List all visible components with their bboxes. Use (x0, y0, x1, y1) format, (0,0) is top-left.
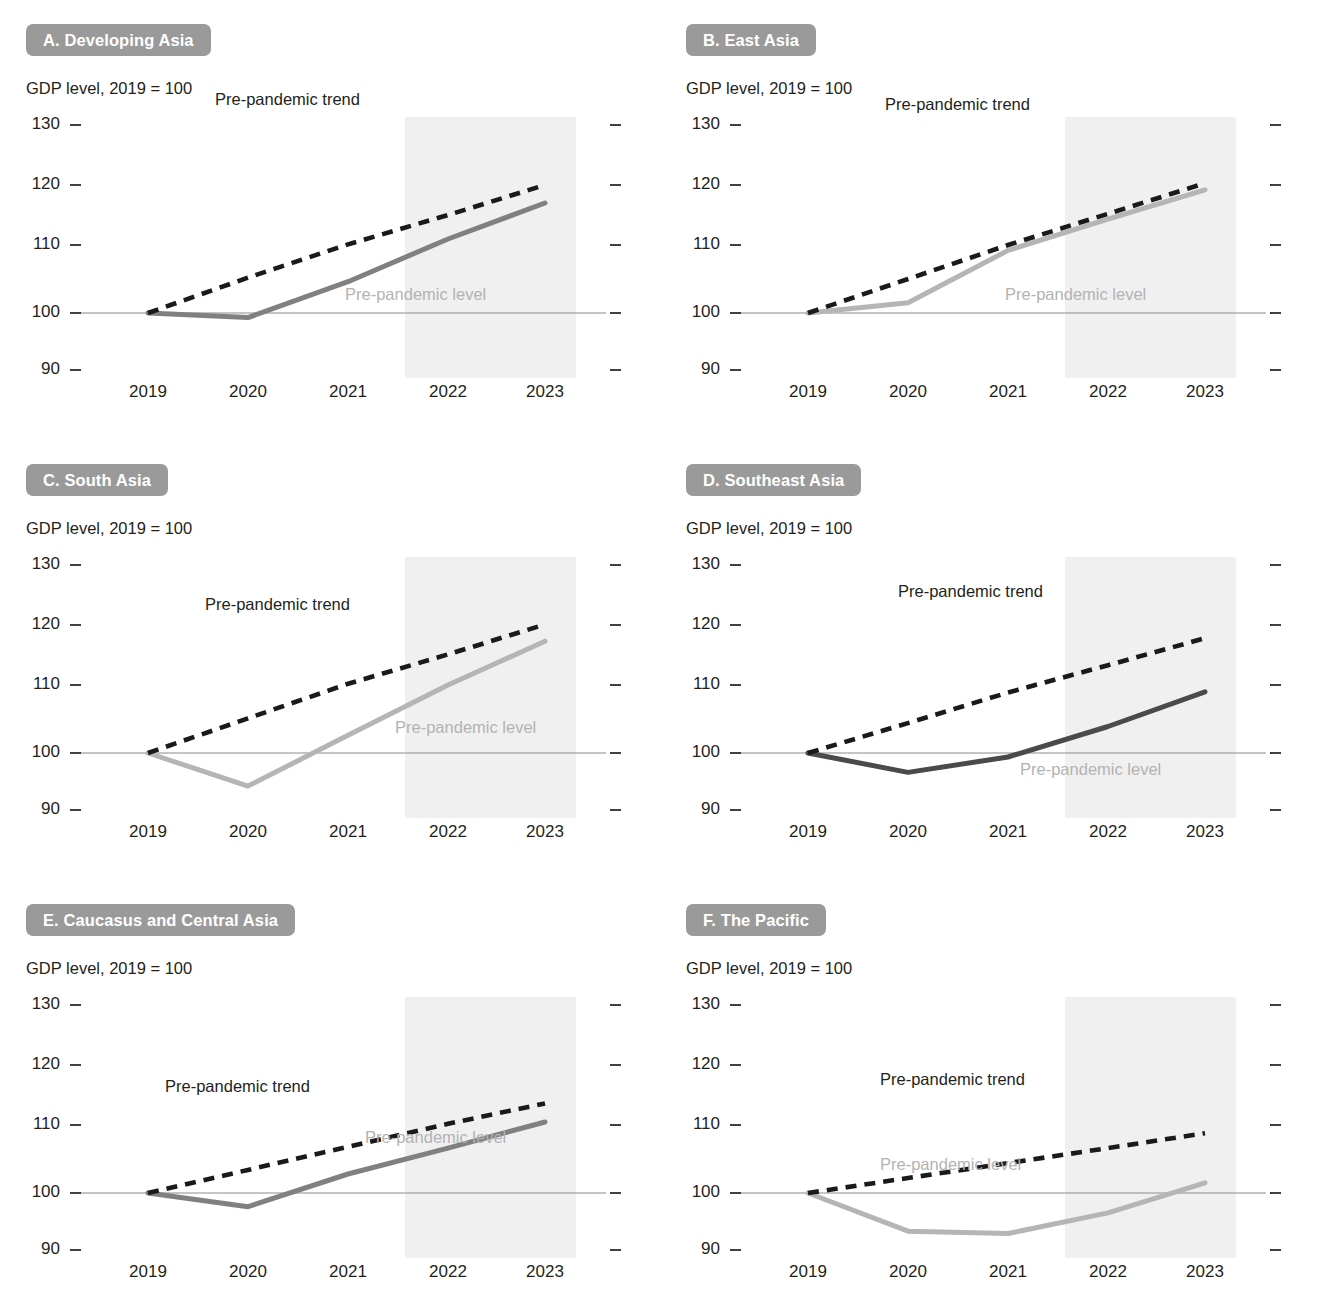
plot-area (0, 105, 660, 395)
x-axis-label-2021: 2021 (968, 822, 1048, 842)
chart-svg (660, 105, 1320, 395)
panel-title-badge: F. The Pacific (686, 904, 826, 936)
axis-unit-label: GDP level, 2019 = 100 (26, 959, 192, 978)
x-axis-label-2019: 2019 (108, 1262, 188, 1282)
forecast-shaded-band (1065, 117, 1236, 378)
panel-title-badge: D. Southeast Asia (686, 464, 861, 496)
x-axis-label-2019: 2019 (768, 822, 848, 842)
x-axis-label-2023: 2023 (1165, 382, 1245, 402)
y-axis-label-120: 120 (14, 1054, 60, 1074)
x-axis-label-2019: 2019 (768, 1262, 848, 1282)
chart-svg (660, 985, 1320, 1275)
panel-title-text: A. Developing Asia (43, 31, 194, 50)
panel-title-badge: A. Developing Asia (26, 24, 211, 56)
x-axis: 20192020202120222023 (0, 822, 660, 852)
x-axis-label-2021: 2021 (968, 382, 1048, 402)
x-axis-label-2020: 2020 (868, 822, 948, 842)
x-axis-label-2023: 2023 (1165, 1262, 1245, 1282)
y-axis-label-90: 90 (14, 1239, 60, 1259)
y-axis-label-90: 90 (14, 359, 60, 379)
axis-unit-label: GDP level, 2019 = 100 (686, 959, 852, 978)
plot-area (660, 105, 1320, 395)
axis-unit-label: GDP level, 2019 = 100 (26, 519, 192, 538)
pre-pandemic-level-annotation: Pre-pandemic level (395, 718, 536, 737)
y-axis-label-120: 120 (674, 1054, 720, 1074)
panel-title-text: D. Southeast Asia (703, 471, 844, 490)
y-axis-label-90: 90 (14, 799, 60, 819)
x-axis-label-2022: 2022 (408, 382, 488, 402)
x-axis-label-2021: 2021 (308, 822, 388, 842)
chart-panel-f: F. The PacificGDP level, 2019 = 100Pre-p… (660, 880, 1320, 1311)
x-axis-label-2020: 2020 (868, 382, 948, 402)
x-axis-label-2019: 2019 (108, 382, 188, 402)
pre-pandemic-trend-annotation: Pre-pandemic trend (898, 582, 1043, 601)
y-axis-label-90: 90 (674, 1239, 720, 1259)
x-axis-label-2020: 2020 (208, 1262, 288, 1282)
chart-panel-a: A. Developing AsiaGDP level, 2019 = 100P… (0, 0, 660, 440)
axis-unit-label: GDP level, 2019 = 100 (26, 79, 192, 98)
y-axis-label-120: 120 (674, 614, 720, 634)
pre-pandemic-level-annotation: Pre-pandemic level (1005, 285, 1146, 304)
x-axis-label-2022: 2022 (1068, 382, 1148, 402)
y-axis-label-130: 130 (674, 554, 720, 574)
y-axis-label-110: 110 (674, 234, 720, 254)
chart-panel-b: B. East AsiaGDP level, 2019 = 100Pre-pan… (660, 0, 1320, 440)
pre-pandemic-level-annotation: Pre-pandemic level (345, 285, 486, 304)
x-axis: 20192020202120222023 (0, 1262, 660, 1292)
pre-pandemic-trend-annotation: Pre-pandemic trend (885, 95, 1030, 114)
y-axis-label-110: 110 (674, 1114, 720, 1134)
y-axis-label-100: 100 (674, 302, 720, 322)
y-axis-label-110: 110 (674, 674, 720, 694)
x-axis-label-2023: 2023 (1165, 822, 1245, 842)
panel-title-text: F. The Pacific (703, 911, 809, 930)
y-axis-label-120: 120 (674, 174, 720, 194)
x-axis-label-2023: 2023 (505, 822, 585, 842)
x-axis-label-2019: 2019 (768, 382, 848, 402)
y-axis-label-130: 130 (674, 114, 720, 134)
axis-unit-label: GDP level, 2019 = 100 (686, 519, 852, 538)
x-axis-label-2021: 2021 (308, 1262, 388, 1282)
chart-svg (0, 985, 660, 1275)
pre-pandemic-trend-annotation: Pre-pandemic trend (205, 595, 350, 614)
y-axis-label-90: 90 (674, 799, 720, 819)
y-axis-label-100: 100 (674, 1182, 720, 1202)
pre-pandemic-trend-annotation: Pre-pandemic trend (880, 1070, 1025, 1089)
x-axis-label-2023: 2023 (505, 1262, 585, 1282)
x-axis: 20192020202120222023 (660, 382, 1320, 412)
y-axis-label-120: 120 (14, 174, 60, 194)
y-axis-label-110: 110 (14, 1114, 60, 1134)
panel-title-badge: E. Caucasus and Central Asia (26, 904, 295, 936)
x-axis-label-2021: 2021 (968, 1262, 1048, 1282)
y-axis-label-100: 100 (14, 742, 60, 762)
pre-pandemic-trend-annotation: Pre-pandemic trend (215, 90, 360, 109)
y-axis-label-100: 100 (674, 742, 720, 762)
chart-panel-e: E. Caucasus and Central AsiaGDP level, 2… (0, 880, 660, 1311)
y-axis-label-110: 110 (14, 234, 60, 254)
pre-pandemic-level-annotation: Pre-pandemic level (1020, 760, 1161, 779)
panel-title-badge: C. South Asia (26, 464, 168, 496)
x-axis-label-2022: 2022 (1068, 1262, 1148, 1282)
forecast-shaded-band (405, 557, 576, 818)
panel-grid: A. Developing AsiaGDP level, 2019 = 100P… (0, 0, 1320, 1311)
plot-area (0, 545, 660, 835)
chart-svg (0, 105, 660, 395)
panel-title-text: E. Caucasus and Central Asia (43, 911, 278, 930)
chart-svg (0, 545, 660, 835)
y-axis-label-130: 130 (14, 994, 60, 1014)
chart-panel-c: C. South AsiaGDP level, 2019 = 100Pre-pa… (0, 440, 660, 880)
x-axis-label-2021: 2021 (308, 382, 388, 402)
panel-title-text: B. East Asia (703, 31, 799, 50)
y-axis-label-100: 100 (14, 302, 60, 322)
x-axis-label-2022: 2022 (1068, 822, 1148, 842)
y-axis-label-130: 130 (674, 994, 720, 1014)
axis-unit-label: GDP level, 2019 = 100 (686, 79, 852, 98)
x-axis: 20192020202120222023 (0, 382, 660, 412)
pre-pandemic-level-annotation: Pre-pandemic level (365, 1128, 506, 1147)
x-axis-label-2022: 2022 (408, 822, 488, 842)
x-axis-label-2023: 2023 (505, 382, 585, 402)
y-axis-label-130: 130 (14, 554, 60, 574)
pre-pandemic-level-annotation: Pre-pandemic level (880, 1155, 1021, 1174)
x-axis-label-2020: 2020 (208, 822, 288, 842)
y-axis-label-100: 100 (14, 1182, 60, 1202)
x-axis-label-2020: 2020 (868, 1262, 948, 1282)
